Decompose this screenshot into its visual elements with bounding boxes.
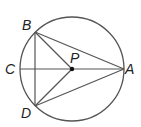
center-point-P [70, 67, 74, 71]
label-C: C [5, 61, 16, 77]
label-P: P [70, 50, 80, 66]
segment-DA [35, 69, 124, 106]
segment-BP [35, 32, 72, 69]
geometry-diagram: B C P A D [0, 0, 141, 127]
label-D: D [21, 105, 31, 121]
label-B: B [22, 17, 31, 33]
label-A: A [124, 61, 134, 77]
segment-BA [35, 32, 124, 69]
segment-DP [35, 69, 72, 106]
